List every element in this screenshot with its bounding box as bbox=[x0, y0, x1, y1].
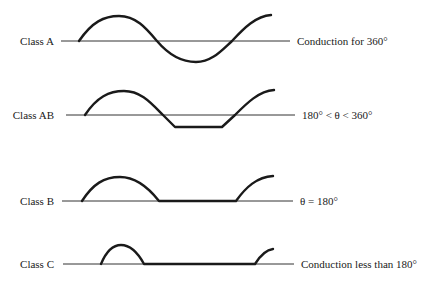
class-c-label: Class C bbox=[0, 258, 54, 270]
class-ab-waveform bbox=[85, 90, 274, 127]
class-b-condition: θ = 180° bbox=[300, 195, 338, 207]
class-b-waveform bbox=[82, 176, 273, 201]
class-a-waveform-group bbox=[61, 15, 290, 62]
class-b-waveform-group bbox=[62, 176, 293, 201]
class-c-waveform-group bbox=[63, 245, 294, 264]
class-ab-label: Class AB bbox=[0, 109, 54, 121]
class-a-condition: Conduction for 360° bbox=[297, 35, 388, 47]
class-ab-condition: 180° < θ < 360° bbox=[302, 109, 372, 121]
class-a-waveform bbox=[79, 15, 271, 62]
class-c-condition: Conduction less than 180° bbox=[301, 258, 417, 270]
class-c-waveform bbox=[101, 245, 273, 264]
class-ab-waveform-group bbox=[66, 90, 295, 127]
class-a-label: Class A bbox=[0, 35, 54, 47]
class-b-label: Class B bbox=[0, 195, 54, 207]
